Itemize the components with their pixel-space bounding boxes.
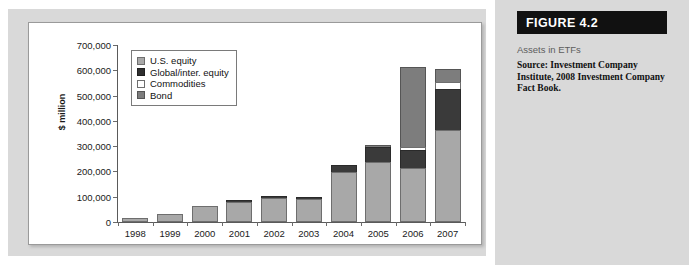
x-axis-tick-label: 2007 <box>430 228 466 239</box>
bar-segment <box>365 147 391 162</box>
x-axis-tick-label: 1999 <box>152 228 188 239</box>
figure-caption: Assets in ETFs <box>517 44 677 55</box>
bar-segment <box>296 199 322 222</box>
legend-label: Bond <box>150 90 172 101</box>
bar-segment <box>331 165 357 173</box>
x-axis-tick-label: 2006 <box>395 228 431 239</box>
figure-root: $ million 700,000600,000500,000400,00030… <box>0 0 689 265</box>
bar-2002 <box>261 196 287 222</box>
bar-segment <box>400 168 426 222</box>
legend-label: Global/inter. equity <box>150 67 229 78</box>
x-axis-tick-label: 2001 <box>221 228 257 239</box>
figure-number-label: FIGURE 4.2 <box>517 16 598 30</box>
x-axis-tick-mark <box>361 222 362 226</box>
figure-note-panel: FIGURE 4.2 Assets in ETFs Source: Invest… <box>495 0 689 265</box>
x-axis-tick-label: 2005 <box>360 228 396 239</box>
y-axis-tick-mark <box>113 146 117 147</box>
legend-swatch-icon <box>137 80 145 88</box>
legend-swatch-icon <box>137 91 145 99</box>
y-axis-tick-label: 400,000 <box>77 115 111 126</box>
bar-2004 <box>331 165 357 222</box>
y-axis-tick-mark <box>113 96 117 97</box>
x-axis-tick-mark <box>292 222 293 226</box>
x-axis-tick-mark <box>222 222 223 226</box>
y-axis-tick-label: 600,000 <box>77 65 111 76</box>
bar-1998 <box>122 218 148 222</box>
y-axis-tick-mark <box>113 70 117 71</box>
bar-2001 <box>226 200 252 222</box>
bar-segment <box>226 202 252 222</box>
x-axis-tick-label: 1998 <box>117 228 153 239</box>
legend-label: U.S. equity <box>150 55 196 66</box>
bar-2006 <box>400 67 426 222</box>
bar-segment <box>365 162 391 222</box>
figure-number-banner: FIGURE 4.2 <box>517 11 667 34</box>
legend-swatch-icon <box>137 57 145 65</box>
figure-source: Source: Investment Company Institute, 20… <box>517 60 669 95</box>
bar-chart: $ million 700,000600,000500,000400,00030… <box>29 23 481 244</box>
x-axis-tick-mark <box>257 222 258 226</box>
y-axis-tick-label: 200,000 <box>77 166 111 177</box>
y-axis-tick-mark <box>113 121 117 122</box>
y-axis-tick-mark <box>113 222 117 223</box>
x-axis-tick-mark <box>396 222 397 226</box>
y-axis-ticks: 700,000600,000500,000400,000300,000200,0… <box>55 23 111 244</box>
y-axis-tick-label: 0 <box>106 217 111 228</box>
x-axis-tick-mark <box>465 222 466 226</box>
legend-item: Global/inter. equity <box>137 67 229 79</box>
legend-label: Commodities <box>150 78 205 89</box>
bar-segment <box>435 89 461 129</box>
x-axis-tick-mark <box>153 222 154 226</box>
x-axis-tick-mark <box>430 222 431 226</box>
legend-item: Commodities <box>137 78 229 90</box>
bar-segment <box>261 198 287 222</box>
x-axis-tick-label: 2004 <box>326 228 362 239</box>
figure-panel: $ million 700,000600,000500,000400,00030… <box>8 9 486 256</box>
y-axis-tick-label: 500,000 <box>77 90 111 101</box>
bar-segment <box>435 82 461 90</box>
bar-2003 <box>296 197 322 222</box>
bar-segment <box>400 150 426 168</box>
bar-2007 <box>435 69 461 222</box>
x-axis-tick-mark <box>187 222 188 226</box>
y-axis-tick-label: 300,000 <box>77 141 111 152</box>
y-axis-tick-label: 700,000 <box>77 40 111 51</box>
y-axis-tick-mark <box>113 197 117 198</box>
bar-segment <box>122 218 148 222</box>
legend-swatch-icon <box>137 68 145 76</box>
bar-segment <box>192 206 218 222</box>
bar-segment <box>157 214 183 222</box>
bar-segment <box>435 69 461 82</box>
legend-item: Bond <box>137 90 229 102</box>
chart-legend: U.S. equityGlobal/inter. equityCommoditi… <box>131 50 237 106</box>
bar-1999 <box>157 214 183 222</box>
bar-segment <box>331 172 357 222</box>
bar-2000 <box>192 206 218 222</box>
chart-card: $ million 700,000600,000500,000400,00030… <box>28 22 482 245</box>
bar-segment <box>400 67 426 148</box>
y-axis-tick-mark <box>113 171 117 172</box>
bar-segment <box>435 130 461 222</box>
y-axis-tick-label: 100,000 <box>77 191 111 202</box>
y-axis-tick-mark <box>113 45 117 46</box>
x-axis-tick-mark <box>118 222 119 226</box>
x-axis-tick-label: 2003 <box>291 228 327 239</box>
x-axis-tick-mark <box>326 222 327 226</box>
legend-item: U.S. equity <box>137 55 229 67</box>
x-axis-tick-label: 2000 <box>187 228 223 239</box>
bar-2005 <box>365 145 391 222</box>
x-axis-tick-label: 2002 <box>256 228 292 239</box>
